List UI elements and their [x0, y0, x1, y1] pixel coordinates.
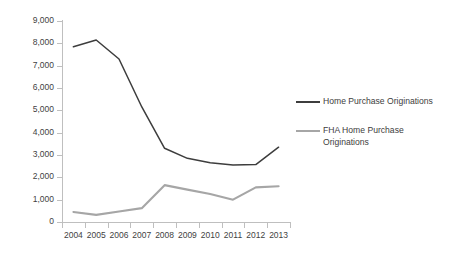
- legend-label: Home Purchase Originations: [323, 96, 445, 108]
- legend-label: FHA Home Purchase Originations: [323, 125, 445, 148]
- chart-legend: Home Purchase OriginationsFHA Home Purch…: [296, 96, 446, 165]
- legend-entry[interactable]: Home Purchase Originations: [296, 96, 446, 108]
- line-swatch-gray-icon: [296, 130, 320, 132]
- line-chart: 01,0002,0003,0004,0005,0006,0007,0008,00…: [0, 0, 450, 256]
- series-line-home-purchase-originations: [73, 185, 278, 215]
- line-swatch-dark-icon: [296, 101, 320, 103]
- series-line-fha-home-purchase-originations: [73, 40, 278, 165]
- legend-entry[interactable]: FHA Home Purchase Originations: [296, 125, 446, 148]
